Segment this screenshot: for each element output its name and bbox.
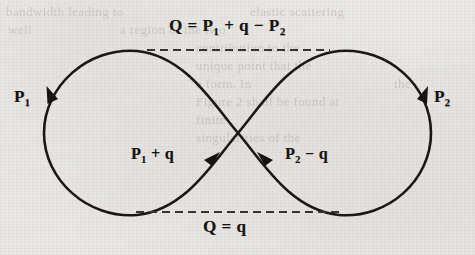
left-lobe-curve bbox=[44, 51, 238, 216]
p1-lead: P bbox=[14, 87, 24, 106]
inner-right-momentum-label: P2 − q bbox=[285, 146, 328, 166]
bottom-cut-equation-label: Q = q bbox=[203, 218, 246, 235]
p2q-lead: P bbox=[285, 145, 295, 162]
right-lobe-curve bbox=[238, 51, 431, 216]
p1q-tail: + q bbox=[147, 145, 174, 162]
p1q-lead: P bbox=[131, 145, 141, 162]
p2q-tail: − q bbox=[301, 145, 328, 162]
top-eq-sub2: 2 bbox=[280, 25, 286, 37]
left-momentum-label: P1 bbox=[14, 88, 30, 109]
top-cut-equation-label: Q = P1 + q − P2 bbox=[169, 17, 286, 38]
figure-canvas: bandwidth leading toelastic scatteringwe… bbox=[0, 0, 475, 255]
top-eq-mid: + q − P bbox=[219, 16, 279, 35]
right-momentum-label: P2 bbox=[434, 88, 450, 109]
p2-sub: 2 bbox=[444, 96, 450, 108]
p2-lead: P bbox=[434, 87, 444, 106]
inner-left-momentum-label: P1 + q bbox=[131, 146, 174, 166]
p1-direction-arrow-icon bbox=[47, 86, 59, 104]
p1-sub: 1 bbox=[24, 96, 30, 108]
top-eq-lead: Q = P bbox=[169, 16, 213, 35]
